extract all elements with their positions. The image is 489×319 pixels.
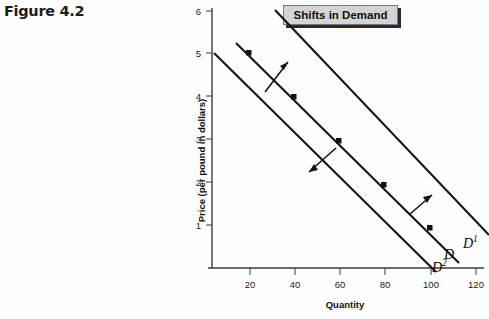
data-point-40-4 [291,94,297,100]
y-tick-label-6: 6 [196,6,201,17]
figure-container: Figure 4.2 Shifts in Demand Price (per p… [0,0,489,319]
curve-label-d1-superscript: 1 [473,234,478,244]
curve-label-d2-base: D [431,260,442,275]
data-point-80-2 [381,182,387,188]
demand-curve-d2 [214,53,436,272]
curve-label-d2-superscript: 2 [442,258,447,268]
x-tick-label-120: 120 [468,279,484,290]
curve-label-d1: D 1 [462,234,478,251]
curve-label-d2: D 2 [431,258,447,275]
x-tick-label-20: 20 [245,279,256,290]
x-tick-label-100: 100 [423,279,439,290]
shift-right-arrow-lower [410,195,432,214]
y-tick-label-5: 5 [196,48,201,59]
plot-area: 6 5 4 3 2 1 20 40 60 80 100 120 [0,0,489,319]
demand-curve-d [236,43,459,263]
data-point-100-1 [427,225,433,231]
y-tick-label-1: 1 [196,220,201,231]
data-point-60-3 [336,138,342,144]
x-tick-label-80: 80 [380,279,391,290]
demand-curve-d1 [275,10,489,235]
y-tick-label-2: 2 [196,177,201,188]
shift-right-arrow [265,62,288,92]
y-tick-label-3: 3 [196,134,201,145]
data-point-20-5 [246,50,252,56]
x-tick-label-60: 60 [335,279,346,290]
curve-label-d1-base: D [462,236,473,251]
y-tick-label-4: 4 [196,91,201,102]
x-tick-label-40: 40 [290,279,301,290]
